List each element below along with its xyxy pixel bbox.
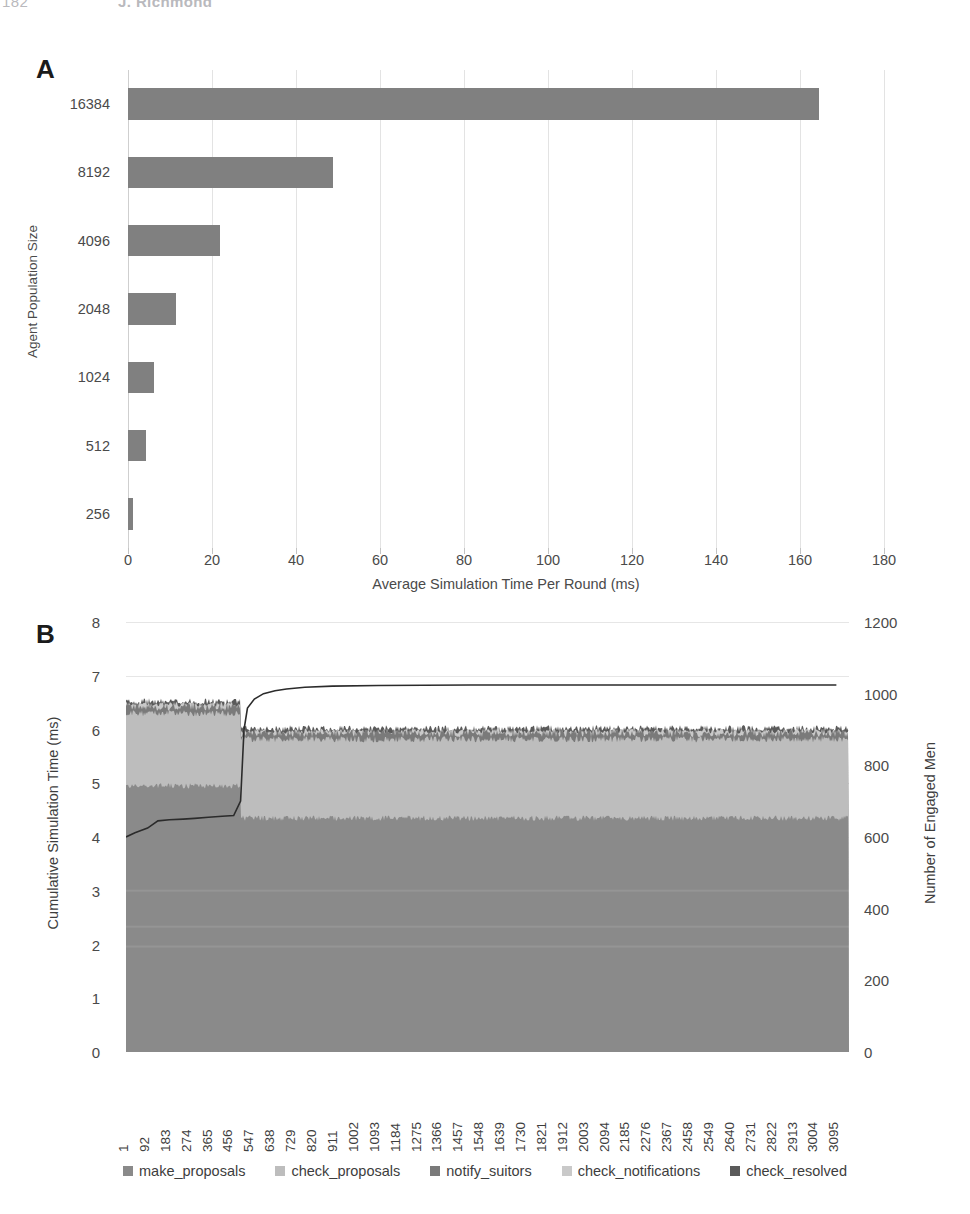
- legend-item[interactable]: make_proposals: [123, 1163, 245, 1179]
- panel-a-tickmark: [884, 548, 885, 554]
- panel-a-x-axis-title: Average Simulation Time Per Round (ms): [128, 576, 884, 592]
- panel-a-gridline: [884, 70, 885, 548]
- panel-b-x-tick-label: 1730: [513, 1122, 528, 1152]
- panel-b-x-tick-label: 820: [304, 1129, 319, 1152]
- panel-b: B 012345678 020040060080010001200 Cumula…: [0, 597, 970, 1214]
- panel-b-x-tick-label: 3095: [826, 1122, 841, 1152]
- panel-a-y-tick-label: 512: [86, 438, 110, 454]
- panel-b-x-tick-label: 547: [241, 1129, 256, 1152]
- legend-label: check_proposals: [291, 1163, 400, 1179]
- panel-b-x-tick-label: 1366: [429, 1122, 444, 1152]
- panel-a-x-tick-label: 0: [124, 552, 132, 568]
- legend-item[interactable]: check_proposals: [275, 1163, 400, 1179]
- panel-b-x-tick-label: 911: [325, 1130, 340, 1152]
- panel-a-bar: [128, 430, 146, 461]
- legend-item[interactable]: check_notifications: [562, 1163, 701, 1179]
- legend-label: notify_suitors: [446, 1163, 531, 1179]
- panel-b-x-tick-label: 2458: [680, 1122, 695, 1152]
- panel-b-x-tick-label: 2185: [617, 1122, 632, 1152]
- panel-a-gridlines: [128, 70, 884, 548]
- panel-b-x-tick-label: 2640: [722, 1122, 737, 1152]
- panel-a-tickmark: [716, 548, 717, 554]
- panel-b-x-tick-label: 1275: [409, 1122, 424, 1152]
- panel-a-gridline: [380, 70, 381, 548]
- panel-a-tickmark: [632, 548, 633, 554]
- panel-b-right-tick-label: 400: [864, 900, 889, 917]
- panel-b-left-tick-label: 1: [92, 990, 100, 1007]
- panel-a-x-tick-label: 80: [456, 552, 472, 568]
- panel-b-x-tick-label: 1821: [534, 1122, 549, 1152]
- panel-a-bar: [128, 362, 154, 393]
- panel-b-x-tick-label: 2003: [576, 1122, 591, 1152]
- panel-b-x-tick-label: 1639: [492, 1122, 507, 1152]
- panel-b-x-tick-label: 2367: [659, 1122, 674, 1152]
- panel-a-tickmark: [548, 548, 549, 554]
- panel-a-bar: [128, 157, 333, 188]
- panel-a-gridline: [296, 70, 297, 548]
- panel-a-gridline: [464, 70, 465, 548]
- running-head-author: J. Richmond: [118, 0, 212, 9]
- panel-b-right-tick-label: 1000: [864, 685, 897, 702]
- panel-b-x-tick-label: 729: [283, 1129, 298, 1152]
- panel-a-tickmark: [212, 548, 213, 554]
- panel-b-x-tick-label: 1093: [367, 1122, 382, 1152]
- panel-b-x-tick-label: 2822: [764, 1122, 779, 1152]
- panel-b-x-tick-label: 2731: [743, 1122, 758, 1152]
- panel-b-plot-area: [126, 622, 849, 1052]
- panel-a-tickmark: [380, 548, 381, 554]
- legend-item[interactable]: notify_suitors: [430, 1163, 531, 1179]
- panel-b-x-tick-label: 274: [179, 1129, 194, 1152]
- panel-a-y-tick-label: 256: [86, 506, 110, 522]
- panel-a-tickmark: [128, 548, 129, 554]
- legend-swatch-icon: [730, 1166, 740, 1176]
- panel-b-x-tick-label: 2913: [785, 1122, 800, 1152]
- panel-a-x-tick-label: 20: [204, 552, 220, 568]
- panel-b-x-tick-label: 1912: [555, 1122, 570, 1152]
- panel-b-left-tick-label: 7: [92, 667, 100, 684]
- panel-b-right-tick-label: 200: [864, 972, 889, 989]
- panel-b-x-tick-label: 365: [200, 1129, 215, 1152]
- panel-a-y-tick-label: 2048: [78, 301, 110, 317]
- panel-b-x-tick-labels: 1921832743654565476387298209111002109311…: [126, 1056, 849, 1152]
- legend-label: check_notifications: [578, 1163, 701, 1179]
- panel-b-right-tick-label: 0: [864, 1044, 872, 1061]
- panel-b-x-tick-label: 638: [262, 1129, 277, 1152]
- panel-b-x-tick-label: 1: [116, 1144, 131, 1152]
- panel-b-y2-axis-title: Number of Engaged Men: [922, 678, 938, 968]
- legend-swatch-icon: [123, 1166, 133, 1176]
- panel-a-y-tick-label: 8192: [78, 164, 110, 180]
- panel-b-x-tick-label: 92: [137, 1137, 152, 1152]
- panel-a-gridline: [212, 70, 213, 548]
- panel-b-y-axis-title: Cumulative Simulation Time (ms): [45, 678, 61, 968]
- panel-a-y-tick-labels: 256512102420484096819216384: [0, 70, 120, 548]
- panel-b-left-tick-label: 8: [92, 614, 100, 631]
- panel-a-y-tick-label: 4096: [78, 233, 110, 249]
- panel-b-stacked-area: [126, 622, 849, 1052]
- legend-label: check_resolved: [746, 1163, 847, 1179]
- panel-a-plot-area: [128, 70, 884, 548]
- panel-b-x-tick-label: 3004: [805, 1122, 820, 1152]
- panel-a-bar: [128, 88, 819, 119]
- panel-a-bar: [128, 225, 220, 256]
- panel-a-bar: [128, 498, 133, 529]
- legend-item[interactable]: check_resolved: [730, 1163, 847, 1179]
- panel-a-bar: [128, 293, 176, 324]
- panel-a: A 256512102420484096819216384 0204060801…: [0, 46, 970, 591]
- panel-b-x-tick-label: 2276: [638, 1122, 653, 1152]
- panel-b-x-tick-label: 456: [220, 1129, 235, 1152]
- panel-b-left-tick-label: 6: [92, 721, 100, 738]
- page-number: 182: [2, 0, 28, 9]
- panel-b-right-tick-label: 800: [864, 757, 889, 774]
- panel-b-x-tick-label: 1457: [450, 1122, 465, 1152]
- panel-a-x-tick-label: 180: [872, 552, 896, 568]
- panel-b-left-tick-label: 0: [92, 1044, 100, 1061]
- panel-a-tickmark: [464, 548, 465, 554]
- panel-a-x-tick-label: 140: [704, 552, 728, 568]
- panel-b-x-tick-label: 2094: [597, 1122, 612, 1152]
- panel-a-x-tick-label: 40: [288, 552, 304, 568]
- panel-b-x-tick-label: 1548: [471, 1122, 486, 1152]
- panel-a-x-tick-labels: 020406080100120140160180: [128, 552, 884, 568]
- panel-b-left-tick-label: 3: [92, 882, 100, 899]
- panel-a-tickmark: [800, 548, 801, 554]
- panel-b-left-tick-label: 4: [92, 829, 100, 846]
